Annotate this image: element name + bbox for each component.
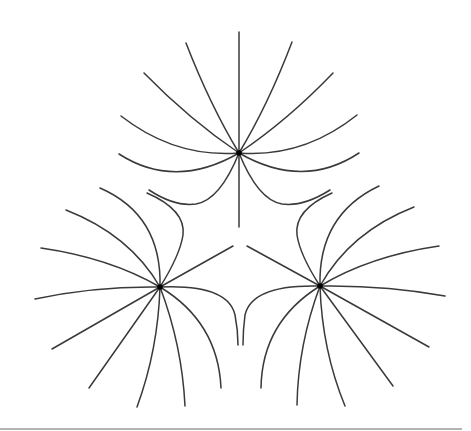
right-charge bbox=[317, 283, 323, 289]
field-line bbox=[137, 287, 160, 407]
left-charge bbox=[157, 284, 163, 290]
field-line bbox=[261, 286, 320, 388]
field-line bbox=[297, 286, 320, 405]
field-line bbox=[186, 43, 239, 153]
field-line bbox=[320, 207, 414, 286]
field-line bbox=[89, 287, 160, 388]
field-line bbox=[320, 286, 393, 386]
field-line bbox=[66, 210, 160, 287]
field-line bbox=[144, 73, 239, 153]
field-line bbox=[320, 286, 445, 296]
field-line bbox=[52, 287, 160, 349]
field-line bbox=[41, 248, 160, 287]
field-line bbox=[320, 286, 429, 347]
field-line bbox=[160, 287, 185, 406]
field-line bbox=[239, 153, 359, 172]
right-charge-field-lines bbox=[243, 186, 445, 406]
field-line-diagram bbox=[0, 0, 471, 431]
field-line bbox=[239, 73, 333, 153]
left-charge-field-lines bbox=[35, 188, 238, 407]
top-charge bbox=[236, 150, 242, 156]
field-line bbox=[160, 287, 221, 388]
field-line bbox=[239, 42, 292, 153]
field-line bbox=[119, 153, 239, 172]
field-line bbox=[320, 246, 439, 286]
